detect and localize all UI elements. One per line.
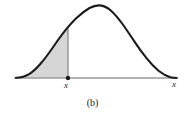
figure-caption: (b) [0, 98, 185, 108]
normal-distribution-figure: x x (b) [0, 0, 185, 117]
x-axis-label: x [172, 80, 176, 89]
boundary-point-label: x [64, 81, 68, 90]
